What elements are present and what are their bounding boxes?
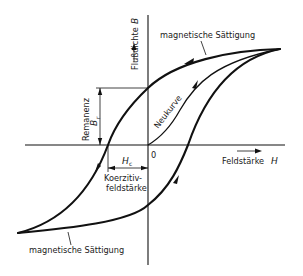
x-axis-arrow-icon (255, 149, 262, 154)
remanence-label: Remanenz (81, 98, 91, 141)
new-curve (148, 49, 280, 145)
coercive-symbol: H (122, 156, 129, 166)
svg-text:B: B (89, 120, 99, 126)
ascending-branch (18, 49, 280, 233)
coercive-subscript: c (129, 160, 132, 167)
svg-text:Remanenz: Remanenz (81, 98, 91, 141)
hysteresis-diagram: 0 Feldstärke H Flußdichte B (0, 0, 303, 276)
arrow-icon-top-branch (184, 58, 194, 64)
x-axis-label: Feldstärke H (222, 149, 278, 167)
svg-text:Feldstärke: Feldstärke (222, 156, 264, 166)
saturation-bottom-label: magnetische Sättigung (29, 245, 124, 255)
svg-text:H: H (271, 156, 278, 166)
saturation-top-label: magnetische Sättigung (160, 30, 255, 40)
coercive-label-line1: Koerzitiv- (104, 173, 142, 183)
origin-label: 0 (151, 150, 156, 160)
coercive-label-line2: feldstärke (106, 183, 147, 193)
svg-text:B: B (130, 18, 140, 24)
y-axis-label: Flußdichte B (130, 18, 140, 70)
